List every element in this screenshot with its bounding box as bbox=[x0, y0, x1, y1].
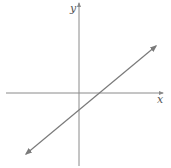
graph-line bbox=[26, 46, 156, 154]
y-axis-label: y bbox=[69, 2, 77, 15]
coordinate-plane: y x bbox=[0, 0, 171, 168]
x-axis-label: x bbox=[157, 93, 164, 106]
